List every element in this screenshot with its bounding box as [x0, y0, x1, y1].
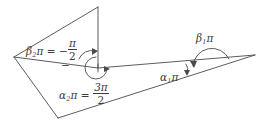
label-alpha2-pi: α2π = 3π2 [59, 82, 109, 106]
alpha2-denominator: 2 [93, 94, 109, 105]
beta2-equals: = [47, 45, 56, 57]
beta1-pi: π [206, 32, 213, 44]
beta2-arc-arrowhead [92, 48, 98, 55]
label-stray-minus: − [61, 60, 70, 71]
beta1-arc-arrowhead [190, 61, 197, 68]
inner-edge-to-right-vertex [98, 55, 255, 68]
alpha2-pi: π [70, 89, 77, 101]
label-alpha1-pi: α1π [160, 72, 178, 84]
beta2-sign: − [59, 45, 68, 57]
beta2-numerator: π [68, 38, 77, 50]
alpha2-numerator: 3π [93, 82, 109, 94]
label-beta1-pi: β1π [196, 33, 213, 45]
alpha1-pi: π [171, 71, 178, 83]
polygon-edge-left-to-bottom [14, 57, 58, 118]
angle-diagram-figure: β2π = −π2 − α2π = 3π2 α1π β1π [0, 0, 262, 124]
beta2-pi: π [36, 45, 43, 57]
alpha2-fraction: 3π2 [93, 82, 109, 106]
alpha1-arc-arrowhead [184, 70, 190, 76]
alpha2-equals: = [81, 89, 90, 101]
diagram-canvas [0, 0, 262, 124]
